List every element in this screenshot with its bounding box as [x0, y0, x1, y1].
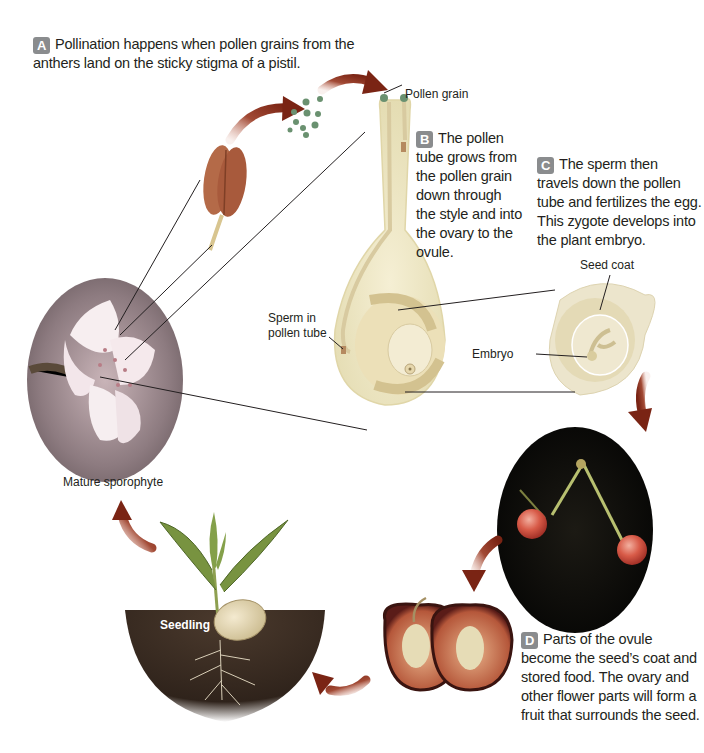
cherry-fruit-photo: [497, 427, 653, 633]
step-d-caption: DParts of the ovule become the seed’s co…: [521, 630, 704, 725]
cycle-arrow-6: [112, 500, 152, 548]
seedling-illustration: [125, 512, 325, 722]
flower-photo: [27, 278, 183, 482]
fruit-halves-illustration: [384, 598, 512, 690]
seed-coat-label: Seed coat: [580, 258, 634, 273]
cycle-arrow-2: [322, 70, 388, 94]
step-b-badge: B: [416, 131, 433, 148]
step-b-caption: BThe pollen tube grows from the pollen g…: [416, 129, 546, 262]
step-a-caption: APollination happens when pollen grains …: [33, 35, 393, 73]
anther-illustration: [199, 143, 250, 250]
seedling-label: Seedling: [160, 618, 210, 633]
step-a-badge: A: [33, 37, 50, 54]
cycle-arrow-1: [230, 96, 305, 140]
cycle-arrow-5: [312, 672, 366, 695]
sperm-in-pollen-tube-label: Sperm in pollen tube: [268, 311, 327, 341]
seed-illustration: [549, 284, 655, 395]
step-c-badge: C: [537, 157, 554, 174]
cycle-arrow-4: [462, 540, 498, 592]
cycle-arrow-3: [628, 376, 652, 432]
mature-sporophyte-label: Mature sporophyte: [63, 475, 163, 490]
step-d-badge: D: [521, 632, 538, 649]
embryo-label: Embryo: [472, 347, 513, 362]
pollen-grain-label: Pollen grain: [405, 87, 468, 102]
step-c-caption: CThe sperm then travels down the pollen …: [537, 155, 704, 250]
